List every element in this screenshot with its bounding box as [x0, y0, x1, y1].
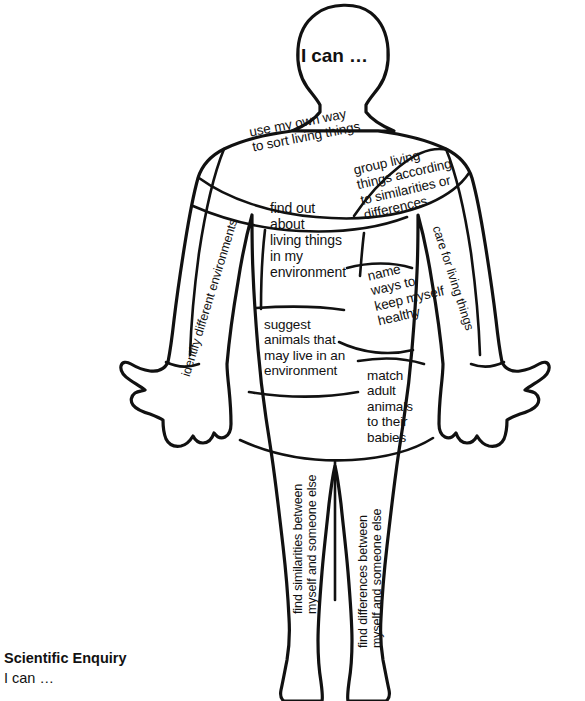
- footer-block: Scientific Enquiry I can …: [4, 650, 126, 686]
- head-label: I can …: [301, 45, 368, 67]
- region-label-lower-right-torso: match adult animals to their babies: [367, 368, 413, 445]
- region-label-lower-left-torso: suggest animals that may live in an envi…: [264, 317, 345, 379]
- worksheet-canvas: I can … use my own way to sort living th…: [0, 0, 585, 701]
- footer-title: Scientific Enquiry: [4, 650, 126, 666]
- region-label-left-leg: find similarities between myself and som…: [291, 475, 320, 614]
- footer-subtitle: I can …: [4, 670, 126, 686]
- region-label-right-leg: find differences between myself and some…: [356, 509, 385, 648]
- region-label-left-torso: find out about living things in my envir…: [270, 201, 346, 281]
